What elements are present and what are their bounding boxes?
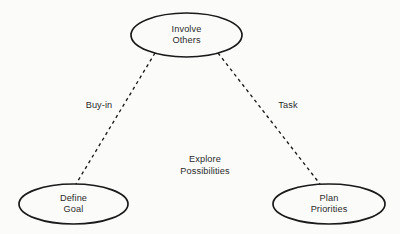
diagram-graphics [0, 0, 400, 234]
node-define-goal-shape[interactable] [19, 184, 128, 224]
diagram-canvas: Involve Others Define Goal Plan Prioriti… [0, 0, 400, 234]
node-plan-priorities-shape[interactable] [273, 184, 385, 224]
node-involve-others-shape[interactable] [131, 13, 242, 57]
edge-task-line [218, 53, 320, 184]
edge-buy-in-line [76, 53, 155, 184]
